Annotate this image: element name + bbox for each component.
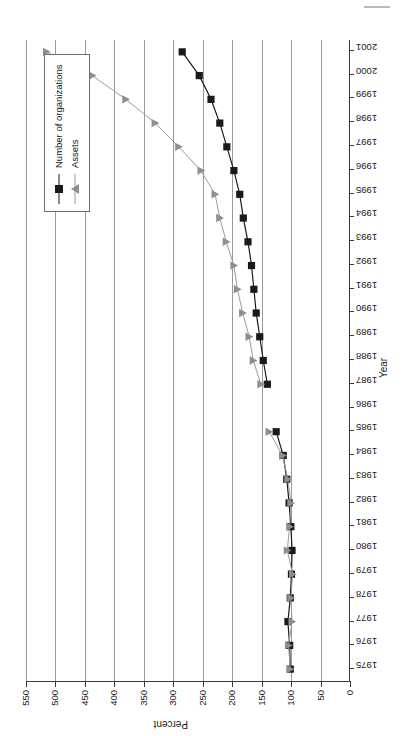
square-marker-icon	[223, 143, 230, 150]
triangle-marker-icon	[266, 428, 274, 436]
legend-item: Assets	[67, 65, 83, 205]
x-axis-tick	[349, 502, 354, 503]
x-axis-tick	[349, 383, 354, 384]
y-axis-tick	[232, 681, 233, 687]
x-axis-tick-label: 1988	[356, 351, 377, 361]
y-axis-tick-label: 0	[345, 690, 355, 695]
y-axis-tick	[350, 681, 351, 687]
x-axis-tick	[349, 621, 354, 622]
x-axis-tick	[349, 430, 354, 431]
square-marker-icon	[240, 214, 247, 221]
y-axis-tick	[321, 681, 322, 687]
data-series	[179, 48, 296, 672]
x-axis-tick	[349, 311, 354, 312]
square-marker-icon	[250, 286, 257, 293]
x-axis-tick-label: 1998	[356, 113, 377, 123]
y-axis-title: Percent	[154, 719, 188, 730]
square-marker-icon	[273, 428, 280, 435]
y-axis-tick-label: 100	[286, 690, 296, 706]
legend-label: Number of organizations	[54, 65, 64, 169]
x-axis-tick-label: 1978	[356, 589, 377, 599]
y-axis-tick-label: 500	[51, 690, 61, 706]
x-axis-tick-label: 2001	[356, 42, 377, 52]
series-line	[182, 52, 267, 384]
x-axis-tick-label: 1995	[356, 185, 377, 195]
x-axis-tick	[349, 264, 354, 265]
x-axis-tick	[349, 359, 354, 360]
y-axis-tick	[203, 681, 204, 687]
x-axis-tick-label: 1992	[356, 256, 377, 266]
square-marker-icon	[207, 96, 214, 103]
x-axis-tick-label: 1980	[356, 541, 377, 551]
x-axis-tick	[349, 478, 354, 479]
y-axis-tick-label: 300	[169, 690, 179, 706]
x-axis-tick-label: 1996	[356, 161, 377, 171]
x-axis-tick	[349, 668, 354, 669]
y-axis-tick-label: 250	[198, 690, 208, 706]
x-axis-tick-label: 1977	[356, 613, 377, 623]
x-axis-tick-label: 1985	[356, 423, 377, 433]
legend-item: Number of organizations	[51, 65, 67, 205]
x-axis-tick-label: 1999	[356, 90, 377, 100]
y-axis-tick-label: 450	[80, 690, 90, 706]
x-axis-tick-label: 1989	[356, 327, 377, 337]
x-axis-tick	[349, 597, 354, 598]
x-axis-tick-label: 1976	[356, 637, 377, 647]
triangle-marker-icon	[250, 356, 258, 364]
x-axis-tick-label: 1975	[356, 660, 377, 670]
y-axis-tick	[144, 681, 145, 687]
square-marker-icon	[196, 72, 203, 79]
y-axis-tick	[262, 681, 263, 687]
x-axis-tick	[349, 525, 354, 526]
x-axis-tick	[349, 240, 354, 241]
x-axis-tick	[349, 121, 354, 122]
legend: Number of organizations Assets	[44, 55, 90, 213]
x-axis-tick	[349, 169, 354, 170]
triangle-marker-icon	[239, 309, 247, 317]
square-marker-icon	[260, 357, 267, 364]
y-axis-tick-label: 400	[110, 690, 120, 706]
x-axis-tick	[349, 573, 354, 574]
rotated-figure-wrapper: Percent Year 050100150200250300350400450…	[0, 0, 404, 736]
square-marker-icon	[230, 167, 237, 174]
x-axis-tick-label: 1981	[356, 518, 377, 528]
y-axis-tick	[291, 681, 292, 687]
triangle-marker-icon	[223, 238, 231, 246]
x-axis-tick	[349, 407, 354, 408]
y-axis-tick	[85, 681, 86, 687]
y-axis-tick	[114, 681, 115, 687]
x-axis-tick	[349, 97, 354, 98]
x-axis-tick	[349, 145, 354, 146]
y-axis-tick-label: 150	[257, 690, 267, 706]
page-edge-artifact	[364, 6, 390, 8]
y-axis-tick-label: 50	[316, 690, 326, 701]
square-marker-icon	[216, 119, 223, 126]
x-axis-tick	[349, 454, 354, 455]
x-axis-tick	[349, 335, 354, 336]
x-axis-tick-label: 1979	[356, 565, 377, 575]
x-axis-tick-label: 1990	[356, 304, 377, 314]
x-axis-tick	[349, 74, 354, 75]
square-marker-icon	[236, 191, 243, 198]
square-marker-icon	[248, 262, 255, 269]
x-axis-tick-label: 1994	[356, 209, 377, 219]
x-axis-tick	[349, 50, 354, 51]
y-axis-tick	[55, 681, 56, 687]
triangle-marker-icon	[197, 166, 205, 174]
x-axis-tick-label: 1993	[356, 232, 377, 242]
chart-figure: Percent Year 050100150200250300350400450…	[0, 0, 404, 736]
square-marker-icon	[256, 333, 263, 340]
chart-page: Percent Year 050100150200250300350400450…	[0, 0, 404, 736]
x-axis-tick-label: 1983	[356, 470, 377, 480]
square-marker-icon	[244, 238, 251, 245]
x-axis-tick	[349, 216, 354, 217]
x-axis-tick-label: 2000	[356, 66, 377, 76]
triangle-marker-icon	[69, 174, 81, 204]
x-axis-tick	[349, 288, 354, 289]
y-axis-tick-label: 350	[139, 690, 149, 706]
x-axis-tick-label: 1982	[356, 494, 377, 504]
y-axis-tick-label: 550	[21, 690, 31, 706]
x-axis-tick-label: 1984	[356, 446, 377, 456]
x-axis-tick-label: 1997	[356, 137, 377, 147]
square-marker-icon	[253, 309, 260, 316]
